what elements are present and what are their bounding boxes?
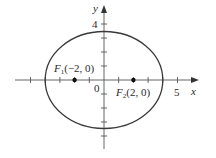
ellipse-diagram: y 4 0 5 x F1(−2, 0) F2(2, 0) — [0, 0, 216, 158]
focus-point-f1 — [72, 78, 76, 82]
focus-label-f1: F1(−2, 0) — [53, 62, 95, 76]
y-tick-label: 4 — [92, 18, 98, 30]
origin-label: 0 — [94, 82, 100, 94]
y-axis-arrow-icon — [101, 5, 107, 13]
x-axis-arrow-icon — [191, 77, 199, 83]
x-tick-label: 5 — [174, 86, 180, 98]
y-axis-label: y — [92, 2, 98, 14]
focus-label-f2: F2(2, 0) — [115, 86, 150, 100]
focus-point-f2 — [131, 78, 135, 82]
x-axis-label: x — [190, 85, 196, 97]
